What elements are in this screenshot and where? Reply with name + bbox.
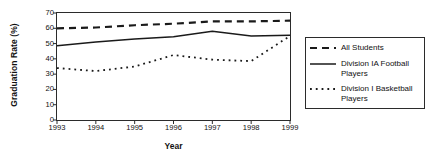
plot-area <box>56 12 291 121</box>
series-line <box>57 36 290 71</box>
graduation-rate-line-chart: Graduation Rate (%) 70 60 50 40 30 20 10… <box>0 0 429 159</box>
legend-item-basketball-players: Division I Basketball Players <box>310 84 420 103</box>
legend-item-football-players: Division IA Football Players <box>310 59 420 78</box>
legend-label: Division I Basketball Players <box>341 84 420 103</box>
y-axis-title: Graduation Rate (%) <box>9 5 19 125</box>
y-tick-label: 50 <box>32 40 54 48</box>
x-tick-label: 1996 <box>154 123 194 132</box>
legend-label: All Students <box>341 43 384 53</box>
legend-swatch-dashed-icon <box>310 43 336 53</box>
legend-swatch-solid-icon <box>310 59 336 69</box>
y-tick-label: 40 <box>32 55 54 63</box>
legend-item-all-students: All Students <box>310 43 420 53</box>
legend-swatch-dotted-icon <box>310 84 336 94</box>
y-tick-label: 60 <box>32 24 54 32</box>
x-tick-label: 1995 <box>115 123 155 132</box>
series-canvas <box>57 13 290 120</box>
y-tick-label: 10 <box>32 101 54 109</box>
series-line <box>57 21 290 29</box>
series-line <box>57 31 290 46</box>
y-tick-label: 70 <box>32 9 54 17</box>
x-tick-label: 1998 <box>231 123 271 132</box>
x-tick-label: 1997 <box>192 123 232 132</box>
y-tick-label: 30 <box>32 70 54 78</box>
legend-label: Division IA Football Players <box>341 59 420 78</box>
y-axis-tick-labels: 70 60 50 40 30 20 10 0 <box>28 0 54 159</box>
chart-legend: All Students Division IA Football Player… <box>305 37 425 109</box>
x-tick-label: 1993 <box>37 123 77 132</box>
y-tick-label: 20 <box>32 85 54 93</box>
x-tick-label: 1994 <box>76 123 116 132</box>
x-axis-title: Year <box>55 141 292 151</box>
x-tick-label: 1999 <box>270 123 310 132</box>
